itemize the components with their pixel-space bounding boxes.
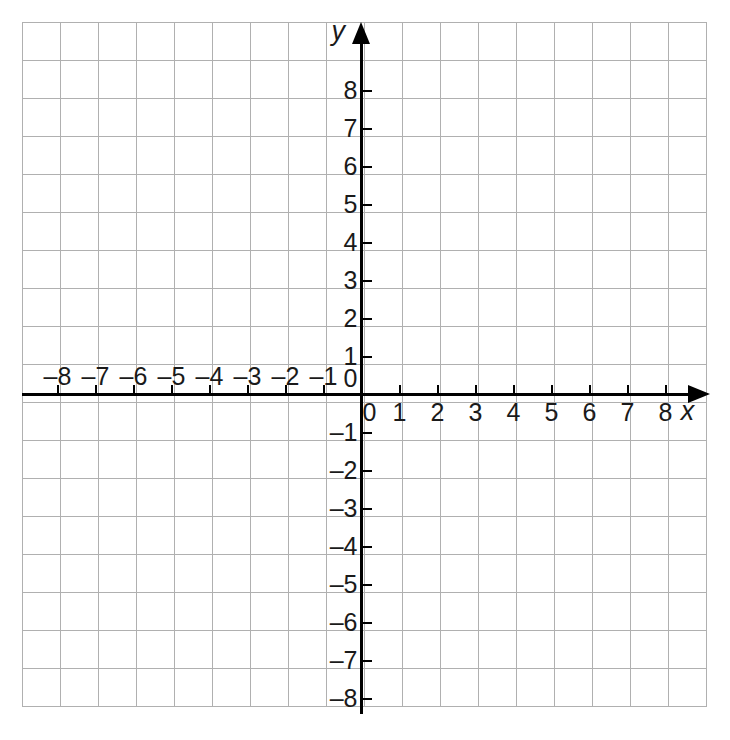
x-tick-3 (475, 385, 477, 394)
y-tick-label--7: –7 (314, 648, 358, 673)
x-tick-label-6: 6 (570, 400, 610, 425)
x-tick-label-4: 4 (494, 400, 534, 425)
x-tick-4 (513, 385, 515, 394)
y-tick--6 (363, 622, 372, 624)
x-tick-6 (589, 385, 591, 394)
y-tick-label-5: 5 (314, 192, 358, 217)
y-tick-6 (363, 166, 372, 168)
y-tick-7 (363, 128, 372, 130)
x-tick-7 (627, 385, 629, 394)
y-tick--4 (363, 546, 372, 548)
y-axis-label: y (332, 18, 346, 45)
y-axis-arrow-icon (352, 22, 370, 44)
x-tick-8 (665, 385, 667, 394)
x-tick-label-3: 3 (456, 400, 496, 425)
y-tick--5 (363, 584, 372, 586)
x-tick-label--7: –7 (76, 364, 116, 389)
y-axis-line (360, 34, 363, 714)
x-tick-5 (551, 385, 553, 394)
y-tick-label-6: 6 (314, 154, 358, 179)
grid-edge-bottom (22, 706, 707, 707)
x-tick-label-8: 8 (646, 400, 686, 425)
y-tick--3 (363, 508, 372, 510)
y-tick-8 (363, 90, 372, 92)
y-tick-label--6: –6 (314, 610, 358, 635)
grid-edge-right (706, 22, 707, 707)
x-tick-label--2: –2 (266, 364, 306, 389)
x-tick-1 (399, 385, 401, 394)
y-tick--2 (363, 470, 372, 472)
x-tick-label--4: –4 (190, 364, 230, 389)
y-tick-2 (363, 318, 372, 320)
y-tick-label-7: 7 (314, 116, 358, 141)
y-tick-5 (363, 204, 372, 206)
y-tick-3 (363, 280, 372, 282)
x-tick-label--8: –8 (38, 364, 78, 389)
y-tick-label--2: –2 (314, 458, 358, 483)
y-tick-1 (363, 356, 372, 358)
x-tick-label--6: –6 (114, 364, 154, 389)
y-tick-label--1: –1 (314, 420, 358, 445)
y-tick-label-4: 4 (314, 230, 358, 255)
x-tick-label-7: 7 (608, 400, 648, 425)
x-tick-label-1: 1 (380, 400, 420, 425)
y-tick--1 (363, 432, 372, 434)
x-tick-label--3: –3 (228, 364, 268, 389)
y-tick-label-8: 8 (314, 78, 358, 103)
x-tick-label--5: –5 (152, 364, 192, 389)
y-tick-label-3: 3 (314, 268, 358, 293)
coordinate-plane: x y –8–7–6–5–4–3–2–1012345678 876543210–… (0, 0, 730, 740)
y-tick-label--4: –4 (314, 534, 358, 559)
x-tick-label-2: 2 (418, 400, 458, 425)
y-tick-label-2: 2 (314, 306, 358, 331)
x-tick-label-5: 5 (532, 400, 572, 425)
y-tick-label--3: –3 (314, 496, 358, 521)
y-tick-label--8: –8 (314, 686, 358, 711)
y-tick-4 (363, 242, 372, 244)
y-tick--7 (363, 660, 372, 662)
y-tick--8 (363, 698, 372, 700)
y-tick-label--5: –5 (314, 572, 358, 597)
x-axis-line (22, 393, 696, 396)
y-tick-label-0: 0 (314, 366, 358, 391)
x-tick-2 (437, 385, 439, 394)
